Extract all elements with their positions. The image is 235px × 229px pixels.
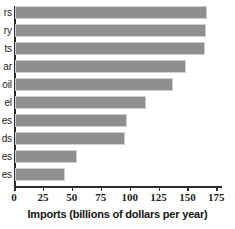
x-axis-line bbox=[14, 186, 222, 188]
x-axis-tick-label: 25 bbox=[37, 192, 48, 203]
x-axis-tick-label: 125 bbox=[150, 192, 167, 203]
category-label: ds bbox=[2, 134, 12, 144]
x-axis-tick-label: 100 bbox=[121, 192, 138, 203]
bar bbox=[15, 150, 77, 163]
bar bbox=[15, 168, 65, 181]
plot-area bbox=[14, 6, 221, 186]
bar bbox=[15, 78, 173, 91]
x-axis-tick-label: 75 bbox=[95, 192, 106, 203]
category-label: es bbox=[2, 152, 12, 162]
category-axis-labels: rsrytsaroilelesdseses bbox=[0, 0, 13, 186]
x-axis-tick-label: 0 bbox=[11, 192, 17, 203]
bar bbox=[15, 24, 206, 37]
category-label: es bbox=[2, 116, 12, 126]
x-axis-tick-label: 175 bbox=[208, 192, 225, 203]
category-label: oil bbox=[2, 80, 12, 90]
category-label: ts bbox=[4, 44, 12, 54]
bar bbox=[15, 132, 125, 145]
category-label: ar bbox=[3, 62, 12, 72]
bar bbox=[15, 42, 205, 55]
bar bbox=[15, 114, 127, 127]
bar bbox=[15, 60, 186, 73]
bar bbox=[15, 96, 146, 109]
category-label: el bbox=[4, 98, 12, 108]
category-label: rs bbox=[4, 8, 12, 18]
x-axis-tick-label: 50 bbox=[66, 192, 77, 203]
x-axis-tick-label: 150 bbox=[179, 192, 196, 203]
category-label: ry bbox=[4, 26, 12, 36]
bar bbox=[15, 6, 207, 19]
x-axis-title: Imports (billions of dollars per year) bbox=[0, 208, 235, 220]
category-label: es bbox=[2, 170, 12, 180]
bar-chart: rsrytsaroilelesdseses Imports (billions … bbox=[0, 0, 235, 229]
